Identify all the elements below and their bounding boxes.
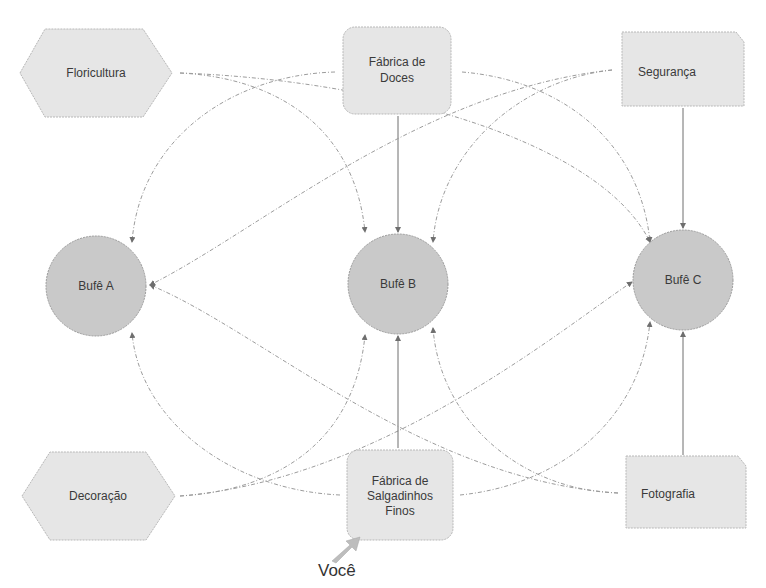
edge-fabrica-doces-bufe-a	[132, 72, 335, 242]
edge-decoracao-bufe-b	[180, 335, 365, 496]
node-label: Floricultura	[66, 66, 126, 80]
edge-fabrica-salgadinhos-bufe-c	[460, 322, 650, 495]
node-fabrica-salgadinhos[interactable]: Fábrica de Salgadinhos Finos	[347, 450, 453, 540]
node-label: Bufê A	[78, 279, 113, 293]
edge-seguranca-bufe-b	[433, 70, 612, 242]
node-label: Segurança	[638, 65, 696, 79]
node-bufe-a[interactable]: Bufê A	[46, 236, 146, 336]
you-label: Você	[318, 561, 356, 580]
node-label-line-2: Salgadinhos	[367, 489, 433, 503]
node-seguranca[interactable]: Segurança	[622, 32, 744, 106]
edge-floricultura-bufe-b	[180, 73, 365, 232]
node-label-line-1: Fábrica de	[369, 55, 426, 69]
node-label: Bufê C	[665, 273, 702, 287]
node-label-line-1: Fábrica de	[372, 474, 429, 488]
node-fotografia[interactable]: Fotografia	[626, 456, 746, 528]
node-label-line-2: Doces	[380, 71, 414, 85]
arrow-icon	[332, 537, 360, 563]
node-fabrica-doces[interactable]: Fábrica de Doces	[343, 27, 451, 114]
you-marker: Você	[318, 537, 360, 580]
edge-fotografia-bufe-b	[433, 328, 618, 493]
supply-network-diagram: Floricultura Fábrica de Doces Segurança …	[0, 0, 766, 588]
node-bufe-b[interactable]: Bufê B	[348, 234, 448, 334]
edge-fabrica-salgadinhos-bufe-a	[132, 333, 340, 495]
node-label: Fotografia	[641, 487, 695, 501]
node-floricultura[interactable]: Floricultura	[20, 29, 172, 117]
node-label: Decoração	[69, 489, 127, 503]
node-label-line-3: Finos	[385, 504, 414, 518]
node-label: Bufê B	[380, 277, 416, 291]
node-bufe-c[interactable]: Bufê C	[633, 230, 733, 330]
node-decoracao[interactable]: Decoração	[22, 452, 175, 540]
